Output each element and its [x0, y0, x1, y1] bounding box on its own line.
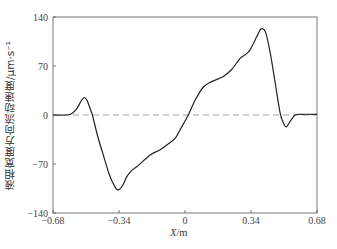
y-tick-label: −140	[27, 208, 48, 219]
axis-tick-labels: −0.68−0.3400.340.68−140−70070140	[27, 12, 325, 227]
velocity-curve	[53, 29, 317, 190]
x-axis-label: X/m	[170, 227, 188, 238]
y-tick-label: 70	[38, 61, 48, 72]
y-axis-label: 液相宽度方向流动速度/μm·s⁻¹	[2, 20, 18, 210]
chart: −0.68−0.3400.340.68−140−70070140	[0, 0, 337, 249]
y-tick-label: 140	[33, 12, 48, 23]
y-tick-label: −70	[32, 159, 48, 170]
x-axis-label-unit: /m	[176, 227, 187, 238]
x-tick-label: −0.34	[107, 215, 130, 226]
x-tick-label: 0	[183, 215, 188, 226]
y-tick-label: 0	[43, 110, 48, 121]
x-tick-label: 0.68	[308, 215, 326, 226]
x-tick-label: 0.34	[242, 215, 260, 226]
